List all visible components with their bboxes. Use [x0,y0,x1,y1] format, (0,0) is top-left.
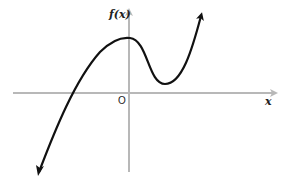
y-axis-label: f(x) [109,8,131,21]
function-graph [0,0,292,183]
origin-label: O [118,95,126,106]
x-axis-label: x [265,95,272,108]
